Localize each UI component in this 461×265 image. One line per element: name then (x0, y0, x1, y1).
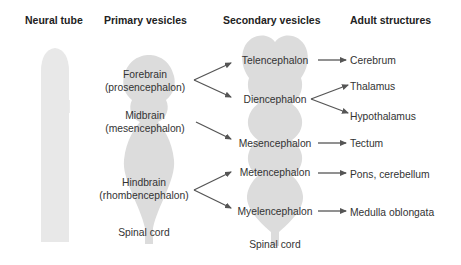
label-hypothalamus: Hypothalamus (350, 110, 416, 123)
label-hindbrain: Hindbrain (rhombencephalon) (99, 176, 188, 202)
label-metencephalon: Metencephalon (240, 166, 310, 179)
header-secondary-vesicles: Secondary vesicles (223, 14, 320, 26)
label-secondary-spinal-cord: Spinal cord (249, 238, 301, 251)
label-diencephalon: Diencephalon (244, 93, 307, 106)
label-telencephalon: Telencephalon (242, 54, 308, 67)
label-medulla-oblongata: Medulla oblongata (350, 206, 434, 219)
label-tectum: Tectum (350, 137, 383, 150)
label-forebrain: Forebrain (prosencephalon) (105, 68, 185, 94)
header-neural-tube: Neural tube (25, 14, 83, 26)
label-cerebrum: Cerebrum (350, 54, 396, 67)
vesicle-shapes (0, 0, 461, 265)
arrow-forebrain-diencephalon (194, 80, 231, 97)
label-myelencephalon: Myelencephalon (238, 205, 313, 218)
arrow-forebrain-telencephalon (194, 63, 231, 80)
arrow-hindbrain-myelencephalon (194, 190, 231, 208)
arrow-diencephalon-hypothalamus (311, 99, 348, 113)
label-thalamus: Thalamus (350, 80, 395, 93)
arrow-hindbrain-metencephalon (194, 172, 231, 190)
label-pons-cerebellum: Pons, cerebellum (350, 168, 430, 181)
arrow-midbrain-mesencephalon (196, 122, 231, 139)
label-primary-spinal-cord: Spinal cord (118, 226, 170, 239)
header-adult-structures: Adult structures (350, 14, 431, 26)
header-primary-vesicles: Primary vesicles (104, 14, 187, 26)
label-midbrain: Midbrain (mesencephalon) (105, 109, 185, 135)
arrow-diencephalon-thalamus (311, 85, 348, 99)
label-mesencephalon: Mesencephalon (239, 137, 312, 150)
